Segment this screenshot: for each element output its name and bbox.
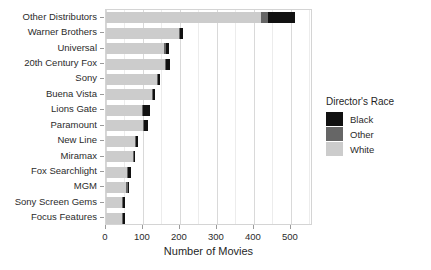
- plot-panel: [105, 9, 312, 225]
- bar-segment-white: [106, 151, 133, 162]
- legend-item: Black: [326, 112, 394, 126]
- x-axis-title: Number of Movies: [105, 245, 312, 257]
- legend-swatch: [326, 142, 343, 156]
- bar-segment-white: [106, 120, 143, 131]
- x-axis-tick-label: 300: [196, 231, 236, 242]
- bar-series-group: [106, 10, 311, 224]
- y-axis-label: Buena Vista: [0, 89, 97, 99]
- x-axis-tick: [142, 225, 143, 229]
- y-axis-tick: [100, 171, 104, 172]
- bar-row: [106, 151, 135, 162]
- bar-segment-black: [143, 105, 149, 116]
- y-axis-label: Lions Gate: [0, 104, 97, 114]
- x-axis-tick: [179, 225, 180, 229]
- bar-row: [106, 105, 150, 116]
- legend-swatch: [326, 112, 343, 126]
- bar-segment-white: [106, 167, 127, 178]
- y-axis-label: Sony Screen Gems: [0, 197, 97, 207]
- bar-segment-white: [106, 74, 157, 85]
- x-axis-tick-label: 400: [233, 231, 273, 242]
- y-axis-label: Warner Brothers: [0, 27, 97, 37]
- y-axis-tick: [100, 32, 104, 33]
- legend-label: Black: [350, 114, 373, 125]
- bar-segment-black: [166, 43, 169, 54]
- bar-segment-black: [136, 136, 138, 147]
- bar-row: [106, 28, 183, 39]
- y-axis-label: Paramount: [0, 120, 97, 130]
- legend-title: Director's Race: [326, 96, 394, 107]
- bar-row: [106, 120, 148, 131]
- legend-label: Other: [350, 129, 374, 140]
- bar-segment-white: [106, 136, 135, 147]
- y-axis-label: MGM: [0, 181, 97, 191]
- y-axis-label: Universal: [0, 43, 97, 53]
- y-axis-tick: [100, 186, 104, 187]
- bar-segment-white: [106, 28, 179, 39]
- y-axis-tick: [100, 63, 104, 64]
- y-axis-tick: [100, 156, 104, 157]
- bar-segment-white: [106, 59, 165, 70]
- bar-segment-black: [144, 120, 148, 131]
- bar-segment-black: [166, 59, 169, 70]
- y-axis-tick: [100, 17, 104, 18]
- x-axis-tick: [290, 225, 291, 229]
- legend-items: BlackOtherWhite: [326, 112, 394, 156]
- y-axis-label: Miramax: [0, 151, 97, 161]
- y-axis-label: Fox Searchlight: [0, 166, 97, 176]
- bar-row: [106, 89, 155, 100]
- y-axis-label: New Line: [0, 135, 97, 145]
- bar-row: [106, 167, 131, 178]
- bar-row: [106, 12, 295, 23]
- y-axis-tick: [100, 202, 104, 203]
- legend-item: Other: [326, 127, 394, 141]
- bar-segment-white: [106, 197, 122, 208]
- bar-segment-other: [261, 12, 268, 23]
- bar-segment-white: [106, 43, 164, 54]
- x-axis-tick-label: 100: [122, 231, 162, 242]
- bar-row: [106, 74, 160, 85]
- bar-segment-black: [153, 89, 155, 100]
- legend: Director's Race BlackOtherWhite: [326, 96, 394, 157]
- bar-segment-white: [106, 213, 122, 224]
- chart-figure: Other DistributorsWarner BrothersUnivers…: [0, 0, 431, 270]
- bar-row: [106, 213, 125, 224]
- x-axis-tick-label: 500: [270, 231, 310, 242]
- x-axis-tick-label: 0: [85, 231, 125, 242]
- bar-segment-black: [134, 151, 135, 162]
- y-axis-tick: [100, 125, 104, 126]
- bar-row: [106, 59, 170, 70]
- bar-segment-white: [106, 12, 261, 23]
- bar-row: [106, 182, 129, 193]
- x-axis-tick: [105, 225, 106, 229]
- y-axis-label: Focus Features: [0, 212, 97, 222]
- y-axis-label: Sony: [0, 73, 97, 83]
- legend-label: White: [350, 144, 374, 155]
- bar-segment-black: [123, 197, 125, 208]
- bar-segment-black: [158, 74, 160, 85]
- y-axis-tick: [100, 217, 104, 218]
- y-axis-label: 20th Century Fox: [0, 58, 97, 68]
- bar-row: [106, 136, 138, 147]
- bar-segment-black: [128, 167, 131, 178]
- x-axis-tick: [216, 225, 217, 229]
- y-axis-tick: [100, 94, 104, 95]
- legend-item: White: [326, 142, 394, 156]
- bar-segment-white: [106, 105, 142, 116]
- bar-segment-white: [106, 182, 126, 193]
- bar-segment-black: [180, 28, 183, 39]
- legend-swatch: [326, 127, 343, 141]
- bar-row: [106, 197, 125, 208]
- y-axis-tick: [100, 78, 104, 79]
- bar-row: [106, 43, 169, 54]
- bar-segment-white: [106, 89, 152, 100]
- y-axis-tick: [100, 48, 104, 49]
- y-axis-tick: [100, 140, 104, 141]
- bar-segment-black: [128, 182, 129, 193]
- bar-segment-black: [268, 12, 295, 23]
- x-axis-tick-label: 200: [159, 231, 199, 242]
- bar-segment-black: [123, 213, 124, 224]
- y-axis-label: Other Distributors: [0, 12, 97, 22]
- y-axis-tick: [100, 109, 104, 110]
- x-axis-tick: [253, 225, 254, 229]
